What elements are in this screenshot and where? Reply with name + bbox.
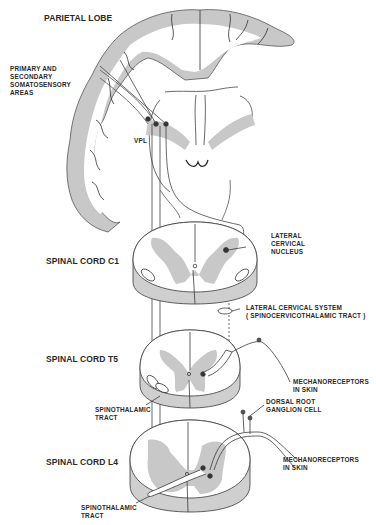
label-somatosensory-areas-line1: PRIMARY AND xyxy=(10,65,57,72)
label-lateral-cervical-nucleus-line3: NUCLEUS xyxy=(271,248,303,255)
label-dorsal-root-ganglion-line1: DORSAL ROOT xyxy=(266,398,315,405)
label-somatosensory-areas-line2: SECONDARY xyxy=(10,73,52,80)
spinal-cord-t5 xyxy=(140,330,290,408)
label-lateral-cervical-nucleus-line2: CERVICAL xyxy=(271,240,305,247)
label-spinal-cord-c1: SPINAL CORD C1 xyxy=(46,257,119,267)
spinal-cord-l4 xyxy=(130,405,300,512)
brainstem xyxy=(160,180,230,220)
label-lateral-cervical-nucleus-line1: LATERAL xyxy=(271,232,302,239)
brain-section xyxy=(67,10,294,232)
thalamus-outline xyxy=(149,87,252,192)
label-lateral-cervical-system-line2: ( SPINOCERVICOTHALAMIC TRACT ) xyxy=(246,312,366,319)
label-spinothalamic-l4-line2: TRACT xyxy=(81,512,104,519)
label-spinothalamic-t5-line1: SPINOTHALAMIC xyxy=(95,406,151,413)
label-spinothalamic-l4-line1: SPINOTHALAMIC xyxy=(81,504,137,511)
lateral-cervical-nucleus xyxy=(224,248,229,253)
somatosensory-pathway-diagram: PARIETAL LOBE PRIMARY AND SECONDARY SOMA… xyxy=(0,0,376,525)
vpl-neuron-1 xyxy=(146,117,151,122)
label-vpl: VPL xyxy=(134,137,147,144)
label-somatosensory-areas-line3: SOMATOSENSORY xyxy=(10,81,71,88)
ventricle xyxy=(186,160,208,166)
label-spinal-cord-l4: SPINAL CORD L4 xyxy=(46,458,118,468)
label-spinothalamic-t5-line2: TRACT xyxy=(95,414,118,421)
label-somatosensory-areas-line4: AREAS xyxy=(10,89,33,96)
label-parietal-lobe: PARIETAL LOBE xyxy=(44,14,112,24)
label-mechanoreceptors-l4-line1: MECHANORECEPTORS xyxy=(283,456,359,463)
label-spinal-cord-t5: SPINAL CORD T5 xyxy=(46,355,118,365)
label-dorsal-root-ganglion-line2: GANGLION CELL xyxy=(266,406,322,413)
label-mechanoreceptors-t5-line1: MECHANORECEPTORS xyxy=(293,378,369,385)
thalamus-gray xyxy=(146,114,255,150)
label-lateral-cervical-system-line1: LATERAL CERVICAL SYSTEM xyxy=(246,304,342,311)
label-mechanoreceptors-t5-line2: IN SKIN xyxy=(293,386,318,393)
label-mechanoreceptors-l4-line2: IN SKIN xyxy=(283,464,308,471)
